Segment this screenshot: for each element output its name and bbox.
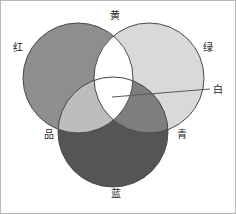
venn-diagram-figure: 红 黄 绿 品 青 蓝 白 (0, 0, 236, 214)
label-blue: 蓝 (111, 189, 121, 199)
label-red: 红 (13, 43, 23, 53)
label-cyan: 青 (177, 130, 187, 140)
venn-diagram-canvas (1, 1, 236, 214)
label-white: 白 (213, 85, 223, 95)
label-magenta: 品 (44, 130, 54, 140)
label-yellow: 黄 (110, 11, 120, 21)
label-green: 绿 (203, 43, 213, 53)
